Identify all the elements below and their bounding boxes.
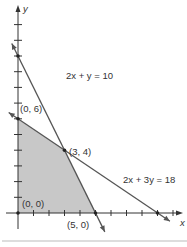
intercept-point bbox=[16, 54, 20, 58]
line-label: 2x + y = 10 bbox=[66, 70, 113, 81]
y-axis-label: y bbox=[22, 3, 29, 14]
point-label: (0, 0) bbox=[22, 198, 44, 209]
vertex-point bbox=[16, 117, 20, 121]
feasible-region-graph: yx2x + y = 102x + 3y = 18(0, 6)(3, 4)(0,… bbox=[0, 0, 187, 247]
vertex-point bbox=[94, 211, 98, 215]
intercept-point bbox=[156, 211, 160, 215]
vertex-point bbox=[63, 148, 67, 152]
x-axis-label: x bbox=[179, 217, 186, 228]
line-label: 2x + 3y = 18 bbox=[123, 174, 175, 185]
vertex-point bbox=[16, 211, 20, 215]
y-axis-arrow-icon bbox=[16, 5, 21, 12]
x-axis-arrow-icon bbox=[176, 211, 183, 216]
point-label: (5, 0) bbox=[67, 219, 89, 230]
arrowhead-icon bbox=[163, 216, 169, 222]
point-label: (0, 6) bbox=[20, 103, 42, 114]
point-label: (3, 4) bbox=[69, 146, 91, 157]
arrowhead-icon bbox=[9, 113, 15, 119]
